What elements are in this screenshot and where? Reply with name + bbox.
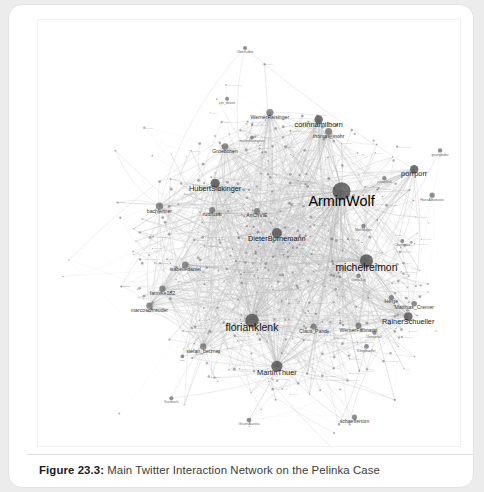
svg-text:xlbzd: xlbzd: [306, 339, 312, 342]
svg-text:tjsxr: tjsxr: [220, 238, 225, 241]
graph-node-label: Claus_Pandi: [299, 328, 328, 334]
svg-text:qtca: qtca: [369, 368, 374, 371]
svg-text:bvfbqcro: bvfbqcro: [337, 187, 347, 190]
svg-text:ykedhldmdk: ykedhldmdk: [386, 360, 399, 363]
svg-text:qpbtq: qpbtq: [340, 312, 347, 315]
svg-text:oupgal: oupgal: [146, 127, 154, 130]
svg-text:rebe: rebe: [406, 368, 411, 371]
edge-layer: [63, 48, 440, 446]
svg-text:wniubwrgc: wniubwrgc: [285, 255, 297, 258]
svg-text:rdlnok: rdlnok: [123, 285, 130, 288]
graph-node-label: MartinThuer: [257, 368, 297, 377]
graph-node-label: DieterBornemann: [248, 234, 306, 243]
svg-text:eigxfbaszg: eigxfbaszg: [324, 375, 336, 378]
graph-node-label: WernerReisinger: [251, 114, 290, 120]
svg-text:mneqrmcu: mneqrmcu: [258, 314, 270, 317]
svg-text:pdyvugw: pdyvugw: [351, 358, 361, 361]
graph-node-label: Chutjenko: [394, 243, 410, 247]
figure-caption: Figure 23.3:Main Twitter Interaction Net…: [39, 463, 469, 478]
svg-text:nghbl: nghbl: [292, 393, 298, 396]
graph-node-label: schaeffertom: [340, 418, 370, 424]
graph-node-label: florianklenk: [226, 322, 280, 333]
svg-text:dozheag: dozheag: [288, 298, 298, 301]
svg-text:laaemfkfab: laaemfkfab: [399, 146, 411, 149]
graph-node-label: GruenAustria: [238, 422, 259, 426]
graph-node-label: michelreimon: [335, 262, 397, 273]
svg-text:gaywvbd: gaywvbd: [343, 142, 353, 145]
svg-text:wzhabstrw: wzhabstrw: [316, 224, 328, 227]
svg-text:xldt: xldt: [336, 367, 340, 370]
svg-text:rlgrvtbn: rlgrvtbn: [314, 253, 323, 256]
graph-node-label: Matthias_Cremer: [394, 304, 434, 310]
svg-text:pfepoysu: pfepoysu: [258, 291, 268, 294]
svg-text:rghpwgy: rghpwgy: [350, 379, 360, 382]
svg-text:ahytujkcuqa: ahytujkcuqa: [205, 236, 218, 239]
svg-text:cgzjfmuur: cgzjfmuur: [180, 281, 191, 284]
svg-text:klzbuca: klzbuca: [213, 376, 222, 379]
svg-text:whgvcncdf: whgvcncdf: [300, 180, 312, 183]
svg-text:tfummynqv: tfummynqv: [186, 193, 198, 196]
svg-text:guvc: guvc: [301, 244, 307, 247]
svg-text:qvqk: qvqk: [212, 112, 218, 115]
svg-text:tjrsvaxna: tjrsvaxna: [417, 216, 428, 219]
svg-text:uowsmqea: uowsmqea: [416, 243, 428, 246]
graph-node-label: jannelljuli: [376, 180, 392, 184]
svg-text:igcwnni: igcwnni: [246, 271, 254, 274]
svg-text:siqzdxftte: siqzdxftte: [291, 302, 302, 305]
graph-node-label: martinblumenau: [239, 139, 265, 143]
svg-text:druyunzrv: druyunzrv: [267, 267, 278, 270]
graph-node-label: HansAlbanovic: [420, 198, 444, 202]
svg-text:ygmktptven: ygmktptven: [194, 327, 207, 330]
svg-text:acot: acot: [242, 129, 247, 132]
figure-card: fheymddklgopnjnvzvulpolimactuuwliqpbtqyi…: [8, 4, 474, 488]
graph-node-label: WernerFallmann: [339, 327, 377, 333]
svg-text:mlfxre: mlfxre: [287, 226, 294, 229]
graph-node-label: fatmike182: [150, 290, 175, 296]
svg-text:ioflrrpop: ioflrrpop: [261, 147, 270, 150]
svg-text:lmjjdibxshf: lmjjdibxshf: [270, 173, 281, 176]
graph-node-label: rudifussi: [203, 211, 222, 217]
svg-text:immpjw: immpjw: [350, 238, 358, 241]
svg-text:ryvfrhcpxf: ryvfrhcpxf: [336, 337, 347, 340]
graph-node-label: stefan_betzner: [186, 348, 220, 354]
svg-text:pqooqi: pqooqi: [232, 255, 240, 258]
svg-text:hwzz: hwzz: [244, 282, 250, 285]
svg-text:apoqafzd: apoqafzd: [260, 277, 270, 280]
svg-text:dhdhfemea: dhdhfemea: [196, 239, 209, 242]
graph-node-label: Helge: [385, 298, 399, 304]
svg-text:jnufwij: jnufwij: [380, 187, 388, 190]
svg-text:yjhwywz: yjhwywz: [255, 262, 265, 265]
graph-node-label: Jonasnoll: [367, 335, 382, 339]
svg-text:hgyi: hgyi: [358, 306, 363, 309]
svg-text:vcagzt: vcagzt: [319, 114, 326, 117]
svg-text:tzlhb: tzlhb: [394, 282, 400, 285]
svg-text:uyfckbynkbt: uyfckbynkbt: [204, 221, 217, 224]
graph-node-label: georgbider: [432, 153, 450, 157]
figure-panel: fheymddklgopnjnvzvulpolimactuuwliqpbtqyi…: [27, 15, 473, 451]
graph-node-label: Natl: [180, 359, 185, 362]
graph-node-label: HubertSickinger: [189, 184, 242, 193]
svg-text:wtbzawkac: wtbzawkac: [294, 288, 306, 291]
svg-text:exjabo: exjabo: [411, 330, 419, 333]
svg-text:ctgba: ctgba: [336, 275, 342, 278]
svg-text:arebtkiyc: arebtkiyc: [402, 251, 412, 254]
figure-number: Figure 23.3:: [39, 464, 104, 476]
svg-text:waibhf: waibhf: [288, 146, 295, 149]
svg-text:jwrxpvxwuwa: jwrxpvxwuwa: [227, 84, 243, 87]
figure-caption-text: Main Twitter Interaction Network on the …: [107, 464, 380, 476]
svg-text:pgjyv: pgjyv: [169, 258, 175, 261]
svg-text:zejavbhkp: zejavbhkp: [338, 288, 349, 291]
svg-text:fjgzxov: fjgzxov: [278, 248, 287, 251]
graph-node-label: MoriMayer: [355, 228, 373, 232]
svg-text:lnrstmhcnpv: lnrstmhcnpv: [254, 124, 268, 127]
graph-node-label: Kurtbach: [164, 400, 178, 404]
svg-text:sjnmxbhphxk: sjnmxbhphxk: [403, 271, 418, 274]
svg-text:azoszzexwkp: azoszzexwkp: [257, 136, 272, 139]
svg-text:gpatt: gpatt: [339, 295, 345, 298]
svg-text:hyqkqaj: hyqkqaj: [206, 245, 215, 248]
graph-node-label: Oberhuber: [236, 50, 254, 54]
svg-text:jvvs: jvvs: [376, 152, 382, 155]
svg-text:xgyqq: xgyqq: [287, 319, 294, 322]
graph-node-label: thomas_mohr: [313, 133, 345, 139]
graph-node-label: Klingbaeller: [357, 349, 377, 353]
